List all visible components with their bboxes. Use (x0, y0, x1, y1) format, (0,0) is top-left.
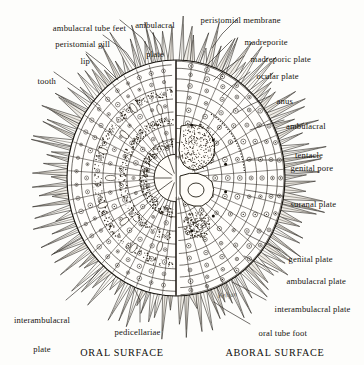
label-genital-plate: genital plate (284, 245, 364, 264)
label-ambulacral-plate-top: ambulacral plate (124, 2, 186, 69)
label-text: peristomial membrane (201, 15, 281, 25)
label-genital-pore: genital pore (286, 154, 364, 173)
label-peristomial-membrane: peristomial membrane (196, 6, 326, 25)
label-text: genital pore (291, 163, 334, 173)
label-text: genital plate (289, 254, 333, 264)
label-text-line1: interambulacral (2, 316, 82, 326)
label-text: suranal plate (291, 199, 337, 209)
label-text-line1: ambulacral (124, 21, 186, 31)
label-lip: lip (8, 47, 90, 66)
label-suranal-plate: suranal plate (286, 190, 364, 209)
label-text: lip (80, 56, 90, 66)
label-text-line1: ambulacral (286, 122, 364, 132)
label-text: ambulacral plate (287, 276, 346, 286)
label-text: oral tube foot (259, 328, 307, 338)
caption-aboral-surface: ABORAL SURFACE (212, 347, 338, 358)
label-pedicellariae: pedicellariae (110, 318, 200, 337)
label-text: tooth (38, 76, 56, 86)
label-text: ocular plate (257, 71, 299, 81)
caption-oral-surface: ORAL SURFACE (66, 347, 178, 358)
label-text: interambulacral plate (275, 304, 351, 314)
label-ambulacral-plate-right: ambulacral plate (282, 267, 364, 286)
figure-canvas: ambulacral tube feet peristomial gill li… (0, 0, 364, 365)
label-ocular-plate: ocular plate (252, 62, 358, 81)
label-text: pedicellariae (115, 327, 161, 337)
artist-signature: Kelljan (218, 290, 237, 298)
label-tooth: tooth (4, 67, 56, 86)
label-text-line2: plate (124, 50, 186, 60)
label-interambulacral-plate-aboral: interambulacral plate (270, 295, 364, 314)
label-oral-tube-foot: oral tube foot (254, 319, 344, 338)
